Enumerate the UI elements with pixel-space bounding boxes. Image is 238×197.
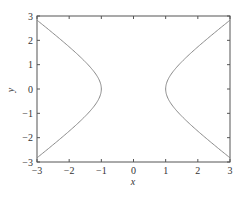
x-tick-label: −2 bbox=[64, 165, 75, 176]
y-tick-label: 3 bbox=[28, 11, 33, 22]
axes-box bbox=[37, 16, 230, 162]
y-tick-label: 1 bbox=[28, 59, 33, 70]
y-tick-label: −3 bbox=[22, 157, 33, 168]
x-tick-label: 2 bbox=[195, 165, 200, 176]
plot-frame bbox=[37, 16, 230, 162]
y-tick-label: −2 bbox=[22, 132, 33, 143]
x-tick-label: 0 bbox=[131, 165, 136, 176]
y-axis-label: y bbox=[5, 87, 16, 93]
x-tick-label: −3 bbox=[32, 165, 43, 176]
hyperbola-chart: −3−2−10123−3−2−10123 x y bbox=[0, 0, 238, 197]
x-axis-label: x bbox=[130, 176, 136, 187]
series-layer bbox=[37, 20, 230, 158]
y-tick-label: −1 bbox=[22, 108, 33, 119]
y-tick-label: 2 bbox=[28, 35, 33, 46]
x-tick-label: −1 bbox=[96, 165, 107, 176]
hyperbola-branch-right bbox=[166, 20, 230, 158]
y-tick-label: 0 bbox=[28, 84, 33, 95]
x-tick-label: 3 bbox=[228, 165, 233, 176]
ticks-layer: −3−2−10123−3−2−10123 bbox=[22, 11, 232, 177]
hyperbola-branch-left bbox=[37, 20, 101, 158]
x-tick-label: 1 bbox=[163, 165, 168, 176]
